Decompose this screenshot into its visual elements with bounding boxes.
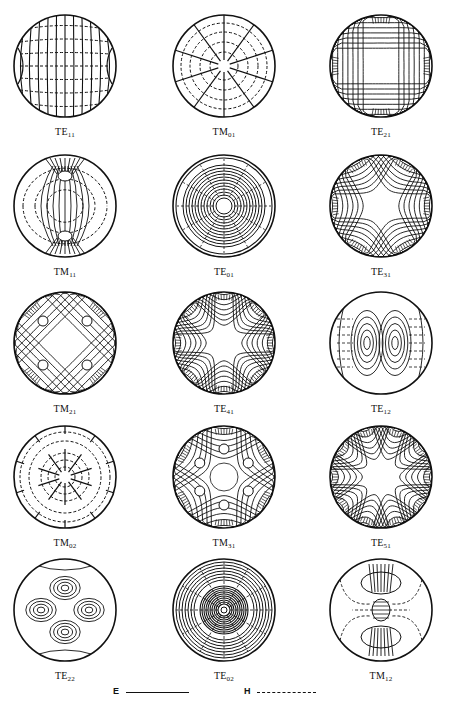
mode-type: TM bbox=[213, 126, 228, 137]
mode-type: TE bbox=[55, 670, 68, 681]
mode-pattern-te51: TE51 bbox=[321, 421, 441, 553]
mode-index: 22 bbox=[68, 675, 75, 683]
mode-label: TM11 bbox=[5, 266, 125, 279]
mode-label: TE22 bbox=[5, 670, 125, 683]
mode-pattern-te22: TE22 bbox=[5, 554, 125, 686]
mode-label: TE31 bbox=[321, 266, 441, 279]
legend-h-label: H bbox=[244, 686, 251, 696]
mode-type: TE bbox=[214, 670, 227, 681]
mode-type: TM bbox=[54, 266, 69, 277]
field-pattern-icon bbox=[321, 287, 441, 399]
mode-index: 12 bbox=[385, 675, 392, 683]
mode-label: TE02 bbox=[164, 670, 284, 683]
mode-label: TE11 bbox=[5, 126, 125, 139]
mode-label: TE21 bbox=[321, 126, 441, 139]
mode-label: TM31 bbox=[164, 537, 284, 550]
field-pattern-icon bbox=[164, 421, 284, 533]
mode-index: 41 bbox=[227, 408, 234, 416]
field-pattern-icon bbox=[321, 150, 441, 262]
mode-index: 11 bbox=[68, 131, 75, 139]
field-pattern-icon bbox=[164, 287, 284, 399]
field-pattern-icon bbox=[5, 421, 125, 533]
mode-index: 12 bbox=[384, 408, 391, 416]
mode-label: TM12 bbox=[321, 670, 441, 683]
mode-index: 31 bbox=[384, 271, 391, 279]
field-pattern-icon bbox=[321, 554, 441, 666]
mode-pattern-tm02: TM02 bbox=[5, 421, 125, 553]
mode-pattern-tm11: TM11 bbox=[5, 150, 125, 282]
mode-pattern-figure: TE11TM01TE21TM11TE01TE31TM21TE41TE12TM02… bbox=[0, 0, 451, 710]
mode-type: TE bbox=[214, 403, 227, 414]
mode-index: 11 bbox=[69, 271, 76, 279]
field-pattern-icon bbox=[5, 150, 125, 262]
solid-line-icon bbox=[126, 692, 189, 693]
field-pattern-icon bbox=[164, 554, 284, 666]
mode-pattern-te12: TE12 bbox=[321, 287, 441, 419]
mode-pattern-te02: TE02 bbox=[164, 554, 284, 686]
mode-pattern-te01: TE01 bbox=[164, 150, 284, 282]
field-pattern-icon bbox=[164, 10, 284, 122]
legend-e-label: E bbox=[113, 686, 119, 696]
mode-pattern-te21: TE21 bbox=[321, 10, 441, 142]
mode-pattern-te41: TE41 bbox=[164, 287, 284, 419]
dashed-line-icon bbox=[257, 692, 316, 693]
mode-type: TE bbox=[214, 266, 227, 277]
mode-label: TE12 bbox=[321, 403, 441, 416]
mode-index: 21 bbox=[69, 408, 76, 416]
mode-pattern-te31: TE31 bbox=[321, 150, 441, 282]
mode-label: TE51 bbox=[321, 537, 441, 550]
mode-label: TE41 bbox=[164, 403, 284, 416]
field-pattern-icon bbox=[321, 421, 441, 533]
mode-label: TE01 bbox=[164, 266, 284, 279]
mode-type: TM bbox=[370, 670, 385, 681]
field-pattern-icon bbox=[5, 10, 125, 122]
mode-pattern-te11: TE11 bbox=[5, 10, 125, 142]
mode-type: TE bbox=[371, 403, 384, 414]
mode-type: TM bbox=[213, 537, 228, 548]
mode-pattern-tm21: TM21 bbox=[5, 287, 125, 419]
mode-type: TM bbox=[54, 403, 69, 414]
mode-label: TM01 bbox=[164, 126, 284, 139]
mode-type: TE bbox=[371, 537, 384, 548]
mode-type: TE bbox=[371, 266, 384, 277]
mode-index: 51 bbox=[384, 542, 391, 550]
mode-label: TM21 bbox=[5, 403, 125, 416]
mode-type: TE bbox=[371, 126, 384, 137]
field-pattern-icon bbox=[5, 554, 125, 666]
mode-pattern-tm12: TM12 bbox=[321, 554, 441, 686]
mode-type: TM bbox=[54, 537, 69, 548]
mode-index: 01 bbox=[227, 271, 234, 279]
field-pattern-icon bbox=[321, 10, 441, 122]
field-pattern-icon bbox=[164, 150, 284, 262]
field-pattern-icon bbox=[5, 287, 125, 399]
mode-label: TM02 bbox=[5, 537, 125, 550]
legend-h-field: H bbox=[244, 686, 324, 700]
mode-index: 31 bbox=[228, 542, 235, 550]
mode-index: 21 bbox=[384, 131, 391, 139]
mode-index: 02 bbox=[227, 675, 234, 683]
legend-e-field: E bbox=[113, 686, 193, 700]
mode-index: 01 bbox=[228, 131, 235, 139]
mode-pattern-tm31: TM31 bbox=[164, 421, 284, 553]
mode-pattern-tm01: TM01 bbox=[164, 10, 284, 142]
mode-type: TE bbox=[55, 126, 68, 137]
mode-index: 02 bbox=[69, 542, 76, 550]
